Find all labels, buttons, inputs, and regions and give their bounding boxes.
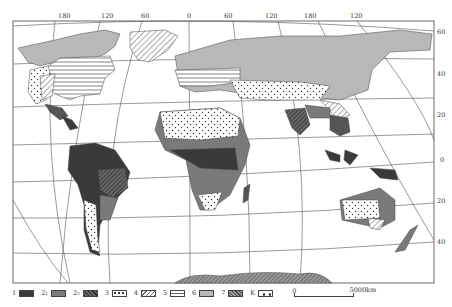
legend-item-4: 4 bbox=[134, 289, 156, 297]
legend-label: 4 bbox=[134, 289, 138, 297]
scale-end-label: 5000km bbox=[350, 286, 377, 294]
svg-text:60: 60 bbox=[437, 28, 445, 36]
legend-label: 6 bbox=[192, 289, 196, 297]
latitude-labels: 60 40 20 0 20 40 bbox=[437, 28, 445, 246]
legend-swatch-solid-medium bbox=[51, 290, 66, 297]
legend-swatch-horizontal-lines bbox=[170, 290, 185, 297]
legend-swatch-solid-light bbox=[199, 290, 214, 297]
legend-label: K bbox=[250, 289, 255, 297]
svg-text:120: 120 bbox=[265, 12, 277, 20]
legend-item-6: 6 bbox=[192, 289, 214, 297]
legend-swatch-sparse-dots bbox=[258, 290, 273, 297]
legend-item-3: 3 bbox=[105, 289, 127, 297]
world-map: 180 120 60 0 60 120 180 120 60 40 20 0 2… bbox=[0, 0, 452, 307]
svg-text:60: 60 bbox=[224, 12, 232, 20]
svg-text:20: 20 bbox=[437, 197, 445, 205]
legend-item-7: 7 bbox=[221, 289, 243, 297]
svg-text:0: 0 bbox=[440, 156, 444, 164]
legend-swatch-dotted bbox=[112, 290, 127, 297]
svg-text:180: 180 bbox=[58, 12, 70, 20]
svg-text:40: 40 bbox=[437, 238, 445, 246]
legend-item-2-1: 2₁ bbox=[41, 289, 66, 297]
scale-bar: 0 5000km bbox=[292, 288, 372, 298]
svg-text:0: 0 bbox=[187, 12, 191, 20]
legend-swatch-diagonal-hatch bbox=[141, 290, 156, 297]
legend-swatch-dark-hatched bbox=[83, 290, 98, 297]
legend-item-1: 1 bbox=[12, 289, 34, 297]
legend-label: 7 bbox=[221, 289, 225, 297]
svg-text:120: 120 bbox=[350, 12, 362, 20]
legend-label: 5 bbox=[163, 289, 167, 297]
legend-swatch-solid-dark bbox=[19, 290, 34, 297]
svg-text:60: 60 bbox=[141, 12, 149, 20]
legend-label: 2₂ bbox=[73, 289, 80, 297]
scale-bar-line bbox=[294, 293, 354, 297]
legend-item-2-2: 2₂ bbox=[73, 289, 98, 297]
svg-text:180: 180 bbox=[304, 12, 316, 20]
svg-text:120: 120 bbox=[101, 12, 113, 20]
legend-item-k: K bbox=[250, 289, 273, 297]
legend-swatch-dense-hatch bbox=[228, 290, 243, 297]
svg-text:40: 40 bbox=[437, 70, 445, 78]
legend-item-5: 5 bbox=[163, 289, 185, 297]
map-legend: 1 2₁ 2₂ 3 4 5 6 7 K 0 5000km bbox=[12, 287, 372, 299]
svg-text:20: 20 bbox=[437, 111, 445, 119]
legend-label: 1 bbox=[12, 289, 16, 297]
legend-label: 2₁ bbox=[41, 289, 48, 297]
longitude-labels: 180 120 60 0 60 120 180 120 bbox=[58, 12, 362, 20]
legend-label: 3 bbox=[105, 289, 109, 297]
